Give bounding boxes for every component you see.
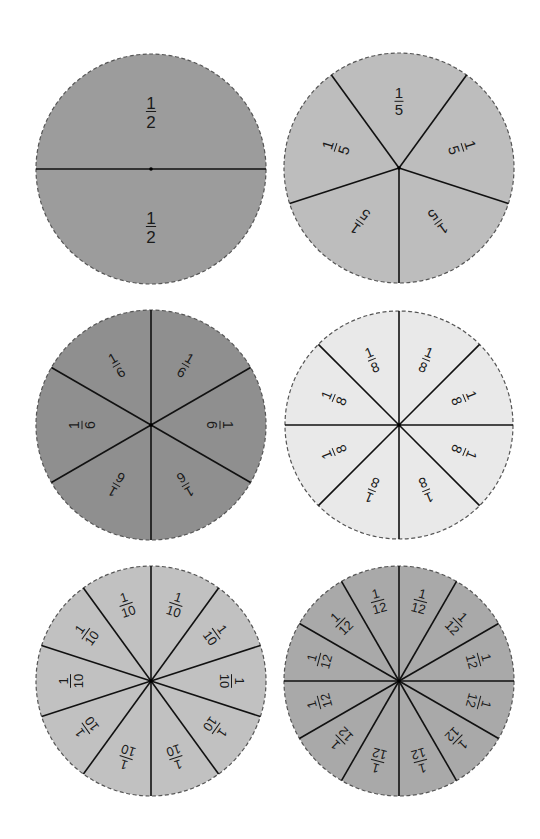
- fraction-circles-canvas: 1212151515151516161616161618181818181818…: [0, 0, 540, 839]
- center-dot: [149, 167, 153, 171]
- fraction-circle-sixths: 161616161616: [36, 310, 266, 540]
- fraction-label: 16: [66, 421, 98, 429]
- numerator: 1: [220, 421, 236, 429]
- denominator: 10: [217, 674, 232, 688]
- fraction-label: 15: [395, 84, 404, 118]
- numerator: 1: [146, 94, 155, 113]
- fraction-label: 12: [146, 209, 156, 247]
- center-dot: [397, 679, 401, 683]
- fraction-label: 16: [204, 421, 236, 429]
- denominator: 2: [146, 113, 155, 132]
- numerator: 1: [395, 84, 403, 101]
- numerator: 1: [146, 209, 155, 228]
- fraction-circle-tenths: 110110110110110110110110110110: [36, 566, 266, 796]
- fraction-circle-eighths: 1818181818181818: [285, 311, 513, 539]
- fraction-circle-twelfths: 112112112112112112112112112112112112: [284, 566, 514, 796]
- numerator: 1: [232, 677, 247, 684]
- center-dot: [149, 679, 153, 683]
- center-dot: [149, 423, 153, 427]
- denominator: 5: [395, 101, 403, 118]
- center-dot: [397, 423, 401, 427]
- fraction-circle-fifths: 1515151515: [284, 53, 514, 283]
- numerator: 1: [56, 677, 71, 684]
- numerator: 1: [66, 421, 82, 429]
- fraction-label: 12: [146, 94, 156, 132]
- denominator: 6: [204, 421, 220, 429]
- denominator: 6: [82, 421, 98, 429]
- center-dot: [397, 166, 401, 170]
- denominator: 2: [146, 228, 155, 247]
- fraction-circle-halves: 1212: [36, 54, 266, 284]
- denominator: 10: [71, 674, 86, 688]
